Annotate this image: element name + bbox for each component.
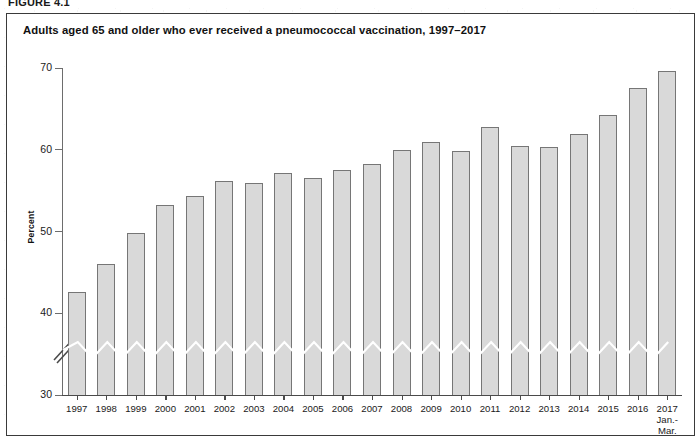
bar-2003 — [245, 183, 263, 395]
x-axis-tick — [431, 395, 432, 400]
bar-2010 — [452, 151, 470, 395]
x-axis-tick — [77, 395, 78, 400]
bar-2002 — [215, 181, 233, 395]
x-axis-tick — [165, 395, 166, 400]
x-axis-tick — [667, 395, 668, 400]
x-axis-tick — [283, 395, 284, 400]
x-axis-tick — [608, 395, 609, 400]
bar-1998 — [97, 264, 115, 395]
bar-2006 — [333, 170, 351, 395]
x-axis-tick — [520, 395, 521, 400]
bar-2015 — [599, 115, 617, 395]
bar-2016 — [629, 88, 647, 395]
bar-2007 — [363, 164, 381, 395]
x-axis-tick-label-2017: 2017Jan.-Mar. — [645, 403, 689, 436]
bar-2011 — [481, 127, 499, 395]
bar-1997 — [68, 292, 86, 395]
bar-2000 — [156, 205, 174, 395]
x-axis-tick — [224, 395, 225, 400]
bar-2009 — [422, 142, 440, 395]
x-axis-tick — [313, 395, 314, 400]
x-axis-tick — [579, 395, 580, 400]
x-axis-tick — [461, 395, 462, 400]
x-axis-tick — [254, 395, 255, 400]
bar-2012 — [511, 146, 529, 395]
bar-2001 — [186, 196, 204, 395]
x-axis-tick — [342, 395, 343, 400]
x-axis-tick — [490, 395, 491, 400]
x-axis-tick — [402, 395, 403, 400]
figure-page: FIGURE 4.1 Adults aged 65 and older who … — [0, 0, 700, 437]
x-axis-tick — [136, 395, 137, 400]
bar-1999 — [127, 233, 145, 395]
bar-2005 — [304, 178, 322, 395]
x-axis-tick — [549, 395, 550, 400]
bar-2008 — [393, 150, 411, 395]
bar-series: 1997199819992000200120022003200420052006… — [0, 0, 700, 437]
bar-2017 — [658, 71, 676, 395]
x-axis-tick — [372, 395, 373, 400]
bar-2014 — [570, 134, 588, 395]
x-axis-tick — [106, 395, 107, 400]
bar-2004 — [274, 173, 292, 395]
x-axis-tick — [195, 395, 196, 400]
bar-2013 — [540, 147, 558, 395]
x-axis-tick — [638, 395, 639, 400]
